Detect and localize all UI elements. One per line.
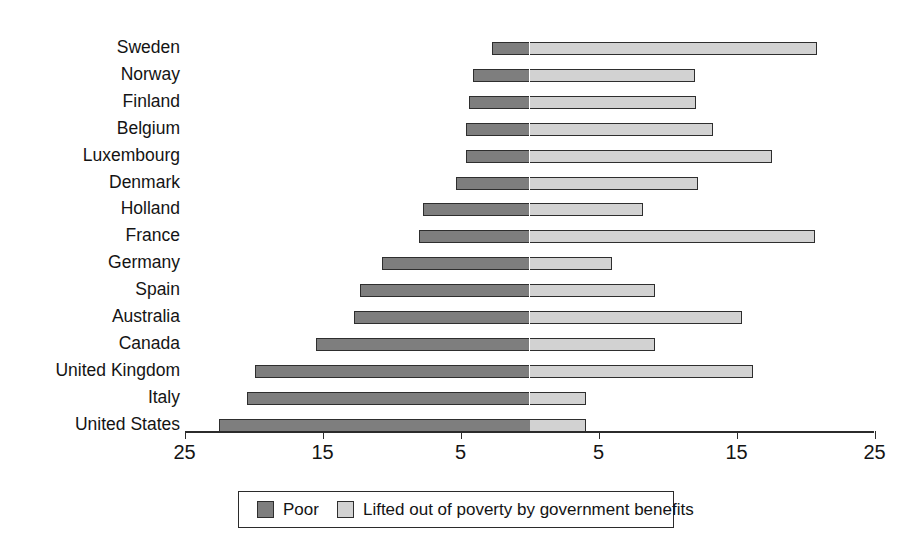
category-label: Sweden [117, 39, 180, 57]
category-label: Spain [135, 281, 180, 299]
bar-segment-poor [255, 365, 530, 378]
category-label: Canada [119, 335, 180, 353]
bar-segment-lifted [530, 177, 698, 190]
bar-segment-lifted [530, 392, 587, 405]
bar-segment-poor [492, 42, 529, 55]
bar-segment-poor [382, 257, 530, 270]
bar-segment-lifted [530, 42, 817, 55]
bar-segment-poor [316, 338, 530, 351]
axis-tick [461, 431, 463, 439]
axis-tick-label: 25 [845, 441, 905, 463]
axis-baseline [185, 431, 874, 433]
legend-swatch-lifted [337, 501, 354, 518]
bar-segment-lifted [530, 230, 816, 243]
axis-tick [737, 431, 739, 439]
axis-tick [185, 431, 187, 439]
bar-segment-poor [360, 284, 530, 297]
legend-swatch-poor [257, 501, 274, 518]
bar-segment-lifted [530, 96, 697, 109]
legend-item[interactable]: Poor [257, 501, 319, 518]
legend-label: Poor [283, 501, 319, 518]
axis-tick-label: 15 [707, 441, 767, 463]
axis-tick-label: 5 [569, 441, 629, 463]
bar-segment-lifted [530, 311, 743, 324]
axis-tick-label: 25 [155, 441, 215, 463]
legend-item[interactable]: Lifted out of poverty by government bene… [337, 501, 694, 518]
category-label: Luxembourg [83, 147, 180, 165]
bar-segment-poor [419, 230, 529, 243]
axis-tick [875, 431, 877, 439]
category-label: Denmark [109, 174, 180, 192]
bar-segment-poor [469, 96, 530, 109]
category-label: Norway [121, 66, 180, 84]
axis-tick [323, 431, 325, 439]
bar-segment-poor [473, 69, 530, 82]
bar-segment-poor [456, 177, 529, 190]
chart-legend: PoorLifted out of poverty by government … [238, 491, 674, 528]
category-label: Germany [108, 254, 180, 272]
bar-segment-poor [247, 392, 530, 405]
bar-segment-lifted [530, 69, 696, 82]
bar-segment-lifted [530, 419, 587, 432]
bar-segment-lifted [530, 365, 754, 378]
bar-segment-poor [219, 419, 530, 432]
legend-label: Lifted out of poverty by government bene… [363, 501, 694, 518]
category-label: Australia [112, 308, 180, 326]
bar-segment-poor [466, 150, 529, 163]
bar-segment-poor [466, 123, 529, 136]
category-label: United States [75, 416, 180, 434]
category-label: Holland [121, 200, 180, 218]
category-label: United Kingdom [55, 362, 180, 380]
bar-segment-lifted [530, 150, 773, 163]
bar-segment-poor [354, 311, 529, 324]
category-label: Italy [148, 389, 180, 407]
bar-segment-poor [423, 203, 529, 216]
axis-tick [599, 431, 601, 439]
axis-tick-label: 15 [293, 441, 353, 463]
category-label: France [126, 227, 180, 245]
category-label: Finland [123, 93, 180, 111]
bar-segment-lifted [530, 338, 656, 351]
bar-segment-lifted [530, 123, 714, 136]
category-label: Belgium [117, 120, 180, 138]
diverging-bar-chart: SwedenNorwayFinlandBelgiumLuxembourgDenm… [0, 0, 909, 552]
axis-tick-label: 5 [431, 441, 491, 463]
bar-segment-lifted [530, 203, 643, 216]
bar-segment-lifted [530, 257, 613, 270]
bar-segment-lifted [530, 284, 656, 297]
